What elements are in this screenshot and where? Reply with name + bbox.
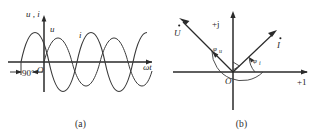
phi-i-label: φ	[253, 57, 257, 65]
figure-container: u , i ωt O u i 90° (a)	[0, 0, 322, 133]
waveform-svg: u , i ωt O u i 90°	[0, 0, 161, 133]
voltage-phasor-dot-icon	[178, 24, 180, 26]
voltage-phasor-label: U	[174, 28, 181, 38]
phasor-svg: U I +j +1 O φ u φ i	[161, 0, 322, 133]
voltage-curve-label: u	[50, 24, 55, 34]
x-axis-label: ωt	[143, 62, 152, 72]
current-phasor-label-group: I	[276, 37, 281, 50]
imag-axis	[230, 11, 235, 110]
x-axis	[8, 60, 152, 65]
current-curve-label: i	[79, 30, 82, 40]
current-phasor-arrowhead	[268, 30, 277, 37]
real-axis	[173, 69, 308, 74]
caption-b: (b)	[161, 119, 322, 129]
phi-u-subscript: u	[219, 48, 222, 54]
caption-a: (a)	[0, 119, 161, 129]
panel-b-phasor: U I +j +1 O φ u φ i (b)	[161, 0, 322, 133]
real-axis-label: +1	[297, 77, 307, 87]
panel-a-waveform: u , i ωt O u i 90° (a)	[0, 0, 161, 133]
voltage-phasor-label-group: U	[174, 24, 181, 38]
y-axis-label: u , i	[26, 9, 40, 19]
origin-label-a: O	[37, 65, 44, 75]
imag-axis-label: +j	[212, 19, 220, 29]
phi-i-subscript: i	[259, 60, 261, 66]
phi-u-label: φ	[213, 45, 217, 53]
origin-label-b: O	[225, 76, 232, 86]
current-phasor-dot-icon	[279, 37, 281, 39]
y-axis-arrowhead	[42, 15, 47, 22]
voltage-phasor-vector	[179, 18, 233, 72]
angle-90-label: 90°	[22, 68, 35, 78]
phi-u-arc	[212, 51, 263, 81]
current-phasor-label: I	[276, 40, 281, 50]
real-axis-arrowhead	[301, 69, 308, 74]
y-axis	[42, 15, 47, 92]
phi-u-label-group: φ u	[213, 45, 222, 54]
phi-i-label-group: φ i	[253, 57, 261, 66]
imag-axis-arrowhead	[230, 11, 235, 18]
